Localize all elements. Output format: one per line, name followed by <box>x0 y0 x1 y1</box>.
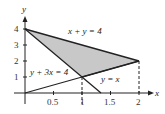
y-tick-label: 1 <box>14 72 19 82</box>
y-tick-label: 4 <box>14 24 19 34</box>
x-tick-label: 1 <box>80 97 85 107</box>
x-tick-label: 2 <box>136 97 141 107</box>
x-tick-label: 0.5 <box>47 97 59 107</box>
x-tick-label: 1.5 <box>104 97 116 107</box>
x-axis-label: x <box>154 88 159 98</box>
equation-label-y-eq-x: y = x <box>100 74 120 84</box>
equation-label-y-plus-3x: y + 3x = 4 <box>29 67 69 77</box>
y-tick-label: 3 <box>14 40 19 50</box>
x-axis-arrow-icon <box>148 91 154 96</box>
region-plot: y x 0.5 1 1.5 2 1 2 3 4 x + y = 4 y + 3x… <box>0 0 165 114</box>
y-axis-arrow-icon <box>23 16 28 22</box>
equation-label-x-plus-y: x + y = 4 <box>67 26 102 36</box>
y-axis-label: y <box>21 4 26 14</box>
y-tick-label: 2 <box>14 56 19 66</box>
